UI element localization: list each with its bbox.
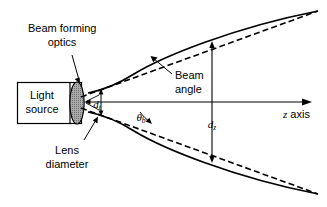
lens-diameter-leader-arrowhead <box>93 117 98 124</box>
lens-diameter-label-line2: diameter <box>46 158 89 170</box>
lens-diameter-label-line1: Lens <box>55 144 79 156</box>
beam-forming-optics-label-line2: optics <box>48 36 77 48</box>
diagram-canvas: dt dz θb Beam forming optics Light <box>0 0 327 207</box>
z-axis-arrowhead <box>302 98 312 105</box>
beam-angle-label-line1: Beam <box>175 69 204 81</box>
lens-diameter-leader-line <box>84 120 96 140</box>
light-source-label-line2: source <box>25 103 58 115</box>
far-field-arrow-top <box>209 41 214 48</box>
z-axis-label: z axis <box>282 108 310 120</box>
far-field-arrow-bottom <box>209 156 214 163</box>
beam-forming-optics-label-line1: Beam forming <box>28 22 96 34</box>
lens-ellipse <box>70 82 84 124</box>
waist-diameter-symbol: dt <box>93 98 102 112</box>
beam-forming-optics-leader-line <box>72 55 79 80</box>
beam-angle-leader-line <box>153 58 172 74</box>
beam-angle-symbol: θb <box>136 111 145 125</box>
light-source-label-line1: Light <box>30 89 54 101</box>
beam-divergence-figure: dt dz θb Beam forming optics Light <box>0 0 327 207</box>
asymptote-lower <box>81 108 318 194</box>
beam-angle-label-line2: angle <box>175 83 202 95</box>
